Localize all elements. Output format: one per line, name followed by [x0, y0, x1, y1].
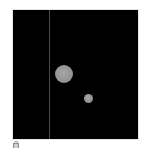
large-blob — [55, 65, 73, 83]
small-blob — [84, 94, 93, 103]
vertical-line — [49, 10, 50, 139]
lock-icon — [13, 143, 19, 148]
image-frame — [12, 9, 139, 140]
